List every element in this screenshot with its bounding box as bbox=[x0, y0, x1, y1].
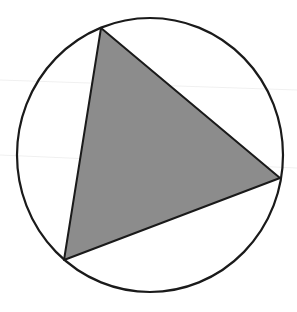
inscribed-triangle-diagram bbox=[0, 0, 297, 312]
